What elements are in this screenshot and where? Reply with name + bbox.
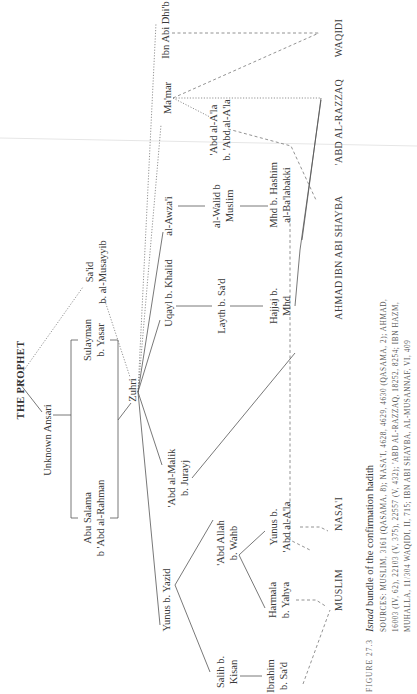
node-yunus-abd-al-ala-line1: Yunus b. <box>268 509 279 546</box>
edge-abdallah-harmala <box>239 555 265 608</box>
node-hajjaj-line2: Mhd <box>281 295 292 316</box>
node-ibrahim-line2: b. Sa'd <box>278 661 289 690</box>
node-abd-allah-line2: b. Wahb <box>228 526 239 561</box>
caption-sources-line3: MUHALLA, 11/304 WAQIDI, II, 715; IBN ABI… <box>404 340 412 632</box>
edge-yunusala-nasai <box>300 527 328 531</box>
node-salih-line1: Salih b. <box>215 656 226 688</box>
node-the-prophet: THE PROPHET <box>15 341 26 420</box>
node-labels: THE PROPHET Unknown Ansari Sulayman b. Y… <box>15 1 292 692</box>
figure-caption: FIGURE 27.3 Isnad bundle of the confirma… <box>364 299 412 692</box>
edge-hajjaj-ahmad <box>295 100 321 306</box>
node-layth-b-sad: Layth b. Sa'd <box>216 278 227 334</box>
edge-mamar-waqidi <box>173 33 319 98</box>
collector-waqidi: WAQIDI <box>333 19 344 57</box>
node-mamar: Ma'mar <box>162 81 173 114</box>
node-yunus-b-yazid: Yunus b. Yazid <box>161 568 172 632</box>
edge-abdalmalik-ahmad <box>192 353 295 478</box>
node-sulayman-line2: b. Yasar <box>95 323 106 357</box>
node-zuhri: Zuhri <box>127 378 138 401</box>
edge-zuhri-uqayl <box>138 320 160 392</box>
caption-title-rest: bundle of the confirmation hadith <box>364 464 375 609</box>
caption-sources-line1: SOURCES: MUSLIM, 3161 (QASAMA, 8); NASA'… <box>380 299 388 632</box>
node-al-walid-line2: Muslim <box>224 190 235 223</box>
edge-said-zuhri <box>104 298 130 377</box>
collector-ibn-abi-shayba: IBN ABI SHAYBA <box>333 195 344 279</box>
node-abd-allah-line1: 'Abd Allah <box>215 520 226 566</box>
node-unknown-ansari: Unknown Ansari <box>42 404 53 476</box>
edge-harmala-muslim <box>296 600 327 607</box>
node-uqayl-b-khalid: Uqayl b. Khalid <box>163 259 174 327</box>
edge-mamar-abdala <box>173 98 210 117</box>
node-ibn-abi-dhib: Ibn Abi Dhi'b <box>160 1 171 58</box>
node-said-line2: b. al-Musayyib <box>97 240 108 304</box>
edge-zuhri-yunus <box>138 392 160 625</box>
edge-ibrahim-muslim <box>303 610 330 684</box>
bracket-right <box>110 340 118 518</box>
edge-yunus-salih <box>175 585 210 672</box>
edge-zuhri-awzai <box>138 232 163 392</box>
node-yunus-abd-al-ala-line2: 'Abd al-A'la <box>281 501 292 552</box>
collector-nasai: NASA'I <box>333 497 344 531</box>
node-mhd-hashim-line2: al-Ba'labakki <box>281 167 292 223</box>
edge-yunus-abdallah <box>175 520 213 585</box>
isnad-tree: THE PROPHET Unknown Ansari Sulayman b. Y… <box>0 0 417 694</box>
collector-ahmad: AHMAD <box>333 280 344 319</box>
node-abd-al-ala-line1: 'Abd al-A'la <box>208 104 219 155</box>
caption-title-italic: Isnad <box>364 608 375 633</box>
collector-abd-al-razzaq: 'ABD AL-RAZZAQ <box>333 78 344 165</box>
node-hajjaj-line1: Hajjaj b. <box>268 288 279 324</box>
isnad-diagram-figure: THE PROPHET Unknown Ansari Sulayman b. Y… <box>0 0 417 694</box>
node-said-line1: Sa'id <box>84 261 95 282</box>
edge-zuhri-mamar <box>138 125 161 392</box>
figure-label: FIGURE 27.3 <box>365 639 374 692</box>
edge-prophet-said <box>17 287 83 380</box>
node-abd-al-malik-line1: 'Abd al-Malik <box>166 448 177 508</box>
edge-bracket-zuhri <box>118 403 131 420</box>
node-al-awzai: al-Awza'i <box>163 196 174 235</box>
node-al-walid-line1: al-Walid b <box>211 184 222 228</box>
caption-title: Isnad bundle of the confirmation hadith <box>364 464 375 633</box>
node-sulayman-line1: Sulayman <box>82 318 93 361</box>
node-abu-salama-line1: Abu Salama <box>82 492 93 544</box>
collector-muslim: MUSLIM <box>333 569 344 611</box>
node-abu-salama-line2: b 'Abd al-Rahman <box>95 479 106 556</box>
edge-mhdhashim-nasai <box>290 218 310 550</box>
node-abd-al-ala-line2: b. 'Abd al-A'la <box>221 99 232 161</box>
node-salih-line2: Kisan <box>228 659 239 684</box>
node-harmala-line1: Harmala <box>267 582 278 618</box>
node-ibrahim-line1: Ibrahim <box>265 659 276 692</box>
node-harmala-line2: b. Yahya <box>280 581 291 618</box>
caption-sources-line2: 16003 (IV, 62), 22103 (V, 375), 22557 (V… <box>392 302 400 632</box>
collector-labels: MUSLIM NASA'I AHMAD IBN ABI SHAYBA 'ABD … <box>333 19 344 611</box>
edge-abdallah-yunusala <box>239 531 265 555</box>
node-mhd-hashim-line1: Mhd b. Hashim <box>268 162 279 228</box>
node-abd-al-malik-line2: b. Jurayj <box>179 460 190 496</box>
